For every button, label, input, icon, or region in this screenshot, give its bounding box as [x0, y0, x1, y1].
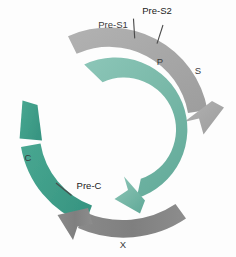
label-pre-c: Pre-C	[77, 180, 102, 191]
p-orf-arc-body	[84, 57, 187, 198]
label-x: X	[120, 239, 127, 250]
hbv-genome-orf-diagram: Pre-S1 Pre-S2 S P C Pre-C X	[0, 0, 236, 257]
label-c: C	[25, 152, 32, 163]
tick-pre-s2-s	[157, 25, 163, 44]
c-orf-arrowhead	[20, 101, 42, 141]
label-pre-s2: Pre-S2	[142, 5, 172, 16]
x-orf-arrowhead	[58, 208, 93, 240]
x-orf-arc-body	[78, 204, 186, 238]
diagram-canvas: Pre-S1 Pre-S2 S P C Pre-C X	[0, 0, 236, 257]
label-p: P	[157, 56, 163, 67]
label-pre-s1: Pre-S1	[98, 19, 128, 30]
label-s: S	[195, 65, 201, 76]
